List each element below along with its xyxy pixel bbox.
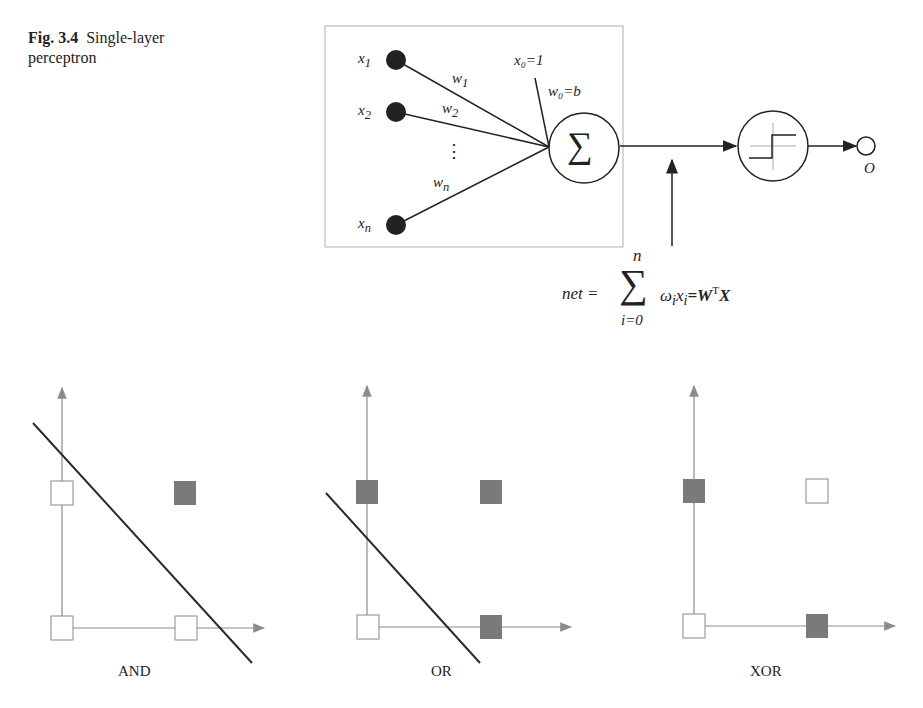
net-label: net = xyxy=(562,284,599,304)
output-label: O xyxy=(864,160,875,177)
ellipsis-icon: ⋮ xyxy=(445,140,463,162)
output-node-icon xyxy=(857,137,875,155)
bias-input-label: x₀=1 xyxy=(514,52,544,69)
input-label-xn: xn xyxy=(358,215,371,236)
xor-plot xyxy=(683,386,895,638)
xor-label: XOR xyxy=(750,663,782,680)
decision-boundary xyxy=(326,493,480,663)
sum-symbol: ∑ xyxy=(619,262,648,306)
summation-symbol: ∑ xyxy=(567,125,593,165)
weight-label-w1: w1 xyxy=(452,70,468,91)
diagram-canvas xyxy=(0,0,923,708)
sum-lower-limit: i=0 xyxy=(621,312,643,329)
input-label-x1: x1 xyxy=(358,50,371,71)
sum-term: ωixi=WTX xyxy=(660,284,730,309)
or-label: OR xyxy=(431,663,452,680)
input-label-x2: x2 xyxy=(358,102,371,123)
and-plot xyxy=(33,388,264,663)
or-plot xyxy=(326,386,571,663)
bias-weight-label: w₀=b xyxy=(548,83,581,100)
and-label: AND xyxy=(118,663,151,680)
weight-label-wn: wn xyxy=(433,174,449,195)
weight-label-w2: w2 xyxy=(442,100,458,121)
